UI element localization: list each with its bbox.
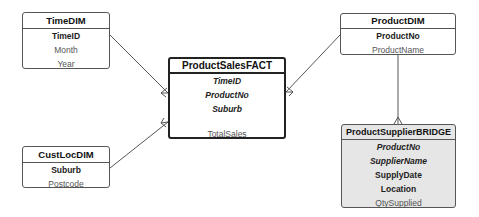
attribute-qtysupplied: QtySupplied [342,196,455,210]
attribute-month: Month [23,43,109,57]
attribute-productname: ProductName [341,43,455,57]
attribute-suburb: Suburb [170,102,284,116]
relationship-product-fact [286,35,340,92]
attribute-productno: ProductNo [342,140,455,154]
attribute-timeid: TimeID [23,29,109,43]
attribute-timeid: TimeID [170,74,284,88]
entity-product-sales-fact[interactable]: ProductSalesFACT TimeID ProductNo Suburb… [168,57,286,139]
attribute-year: Year [23,57,109,71]
entity-custloc-dim[interactable]: CustLocDIM Suburb Postcode [22,146,110,188]
entity-title: ProductDIM [341,14,455,29]
relationship-custloc-fact [110,122,168,168]
attribute-postcode: Postcode [23,177,109,191]
entity-product-supplier-bridge[interactable]: ProductSupplierBRIDGE ProductNo Supplier… [341,124,456,208]
attribute-productno: ProductNo [341,29,455,43]
entity-product-dim[interactable]: ProductDIM ProductNo ProductName [340,13,456,55]
attribute-productno: ProductNo [170,88,284,102]
attribute-suppliername: SupplierName [342,154,455,168]
entity-title: ProductSupplierBRIDGE [342,125,455,140]
relationship-time-fact [110,35,168,93]
entity-time-dim[interactable]: TimeDIM TimeID Month Year [22,12,110,69]
attribute-supplydate: SupplyDate [342,168,455,182]
entity-title: ProductSalesFACT [170,59,284,74]
attribute-totalsales: TotalSales [170,127,284,141]
attribute-location: Location [342,182,455,196]
crows-foot-icon [161,118,168,127]
entity-title: TimeDIM [23,13,109,29]
entity-title: CustLocDIM [23,147,109,163]
attribute-suburb: Suburb [23,163,109,177]
